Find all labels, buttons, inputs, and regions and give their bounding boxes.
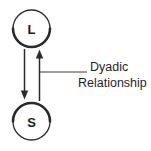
leader-node-label: L <box>28 22 36 37</box>
node-leader[interactable]: L <box>13 10 50 47</box>
upward-arrowhead-icon <box>36 50 43 59</box>
downward-arrowhead-icon <box>21 91 28 100</box>
node-subordinate[interactable]: S <box>13 103 50 140</box>
subordinate-node-label: S <box>27 115 36 130</box>
edge-leader-to-subordinate <box>21 49 28 100</box>
edge-subordinate-to-leader <box>36 50 43 102</box>
annotation-line-2: Relationship <box>78 76 147 90</box>
annotation-line-1: Dyadic <box>90 60 128 74</box>
dyadic-relationship-figure: L S Dyadic Relationship <box>0 0 151 151</box>
annotation-dyadic-relationship: Dyadic Relationship <box>78 60 147 90</box>
diagram-canvas: L S Dyadic Relationship <box>0 0 151 151</box>
